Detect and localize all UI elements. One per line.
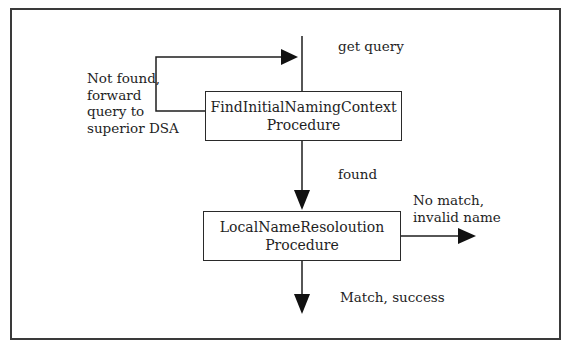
not-found-label: Not found, forward query to superior DSA — [87, 70, 179, 136]
not-found-line-1: Not found, — [87, 70, 179, 87]
get-query-label: get query — [338, 38, 404, 55]
connector-lines — [0, 0, 573, 349]
found-arrowhead-icon — [294, 190, 310, 210]
local-name-resolution-node: LocalNameResoloution Procedure — [203, 211, 401, 261]
not-found-line-3: query to — [87, 103, 179, 120]
node-subtitle: Procedure — [265, 236, 339, 254]
find-initial-naming-context-node: FindInitialNamingContext Procedure — [205, 91, 402, 141]
not-found-line-2: forward — [87, 87, 179, 104]
no-match-label: No match, invalid name — [413, 192, 501, 225]
no-match-line-2: invalid name — [413, 209, 501, 226]
node-title: FindInitialNamingContext — [210, 98, 396, 116]
node-subtitle: Procedure — [267, 116, 341, 134]
loop-arrowhead-icon — [281, 49, 298, 65]
node-title: LocalNameResoloution — [220, 218, 384, 236]
nomatch-arrowhead-icon — [458, 228, 476, 244]
match-arrowhead-icon — [294, 294, 310, 314]
match-success-label: Match, success — [340, 289, 445, 306]
no-match-line-1: No match, — [413, 192, 501, 209]
not-found-line-4: superior DSA — [87, 120, 179, 137]
found-label: found — [338, 166, 377, 183]
